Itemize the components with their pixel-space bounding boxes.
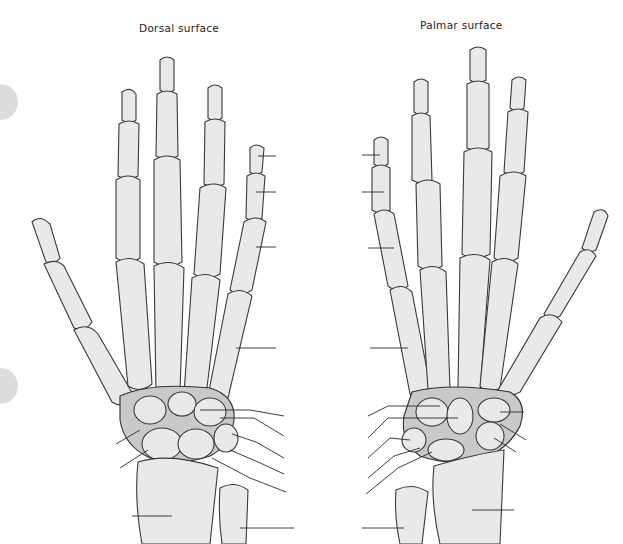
palmar-hand [362, 47, 608, 544]
dorsal-hand [32, 57, 294, 544]
palmar-forearm [396, 450, 505, 544]
dorsal-middle-finger [154, 57, 184, 397]
dorsal-forearm [137, 458, 248, 544]
dorsal-carpals [120, 386, 238, 461]
hand-skeleton-illustration [0, 0, 623, 544]
dorsal-index-finger [116, 89, 152, 389]
